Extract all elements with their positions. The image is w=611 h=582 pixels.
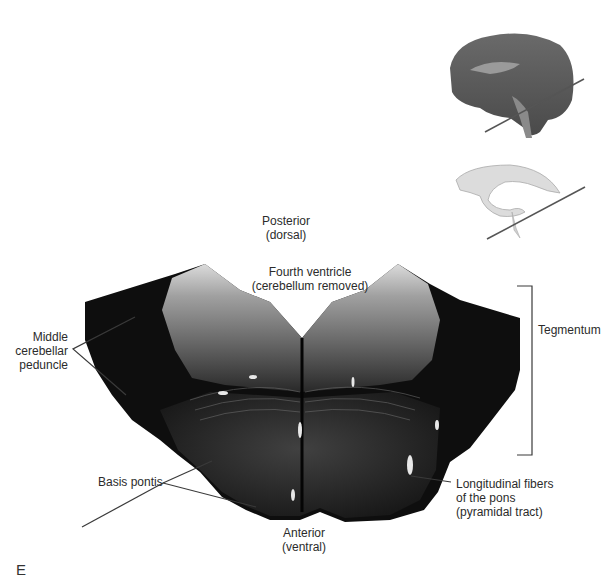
posterior-line1: Posterior: [250, 214, 322, 228]
middle-cerebellar-line2: cerebellar: [0, 344, 68, 358]
basis-pontis-label: Basis pontis: [98, 475, 163, 489]
tegmentum-label: Tegmentum: [538, 323, 601, 337]
posterior-line2: (dorsal): [250, 228, 322, 242]
ventricle-thumbnail: [456, 165, 585, 239]
panel-letter: E: [16, 561, 26, 578]
middle-cerebellar-line3: peduncle: [0, 358, 68, 372]
anterior-line1: Anterior: [266, 526, 342, 540]
longitudinal-line1: Longitudinal fibers: [456, 477, 553, 491]
basis-pontis-region: [160, 392, 440, 518]
longitudinal-fibers-label: Longitudinal fibers of the pons (pyramid…: [456, 477, 553, 519]
longitudinal-line3: (pyramidal tract): [456, 505, 553, 519]
middle-cerebellar-peduncle-label: Middle cerebellar peduncle: [0, 330, 68, 372]
tegmentum-text: Tegmentum: [538, 323, 601, 337]
basis-pontis-text: Basis pontis: [98, 475, 163, 489]
anterior-line2: (ventral): [266, 540, 342, 554]
brain-thumbnail: [450, 33, 584, 138]
longitudinal-line2: of the pons: [456, 491, 553, 505]
middle-cerebellar-line1: Middle: [0, 330, 68, 344]
anterior-label: Anterior (ventral): [266, 526, 342, 554]
fourth-ventricle-line1: Fourth ventricle: [230, 265, 390, 279]
fourth-ventricle-label: Fourth ventricle (cerebellum removed): [230, 265, 390, 293]
fourth-ventricle-line2: (cerebellum removed): [230, 279, 390, 293]
posterior-label: Posterior (dorsal): [250, 214, 322, 242]
